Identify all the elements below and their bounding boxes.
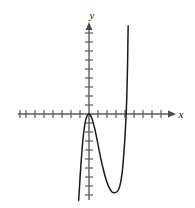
coordinate-plane: x y bbox=[0, 0, 195, 208]
x-axis-arrow-icon bbox=[168, 111, 176, 118]
y-axis-arrow-icon bbox=[86, 22, 93, 30]
graph-figure: x y bbox=[0, 0, 195, 208]
y-axis-label: y bbox=[89, 9, 95, 21]
polynomial-curve bbox=[79, 26, 128, 201]
x-axis-label: x bbox=[178, 108, 184, 120]
